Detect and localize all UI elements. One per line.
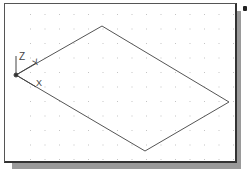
z-axis-label: Z [19,51,25,62]
bullet-marker [243,6,247,11]
x-axis-line [16,75,36,87]
y-axis-label: Y [31,57,41,69]
parallelogram-shape[interactable] [16,26,229,151]
drawing-canvas[interactable]: Z Y X [0,0,250,175]
origin-icon [14,73,18,77]
x-axis-label: X [36,78,42,88]
